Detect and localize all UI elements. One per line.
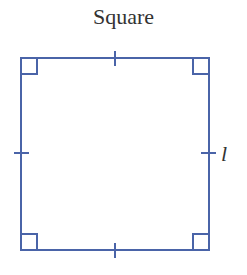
right-angle-marker-bottom-left — [21, 234, 37, 250]
square-outline — [21, 58, 209, 250]
side-length-label: l — [221, 141, 227, 167]
right-angle-marker-bottom-right — [193, 234, 209, 250]
right-angle-marker-top-right — [193, 58, 209, 74]
right-angle-marker-top-left — [21, 58, 37, 74]
square-diagram — [0, 0, 247, 275]
